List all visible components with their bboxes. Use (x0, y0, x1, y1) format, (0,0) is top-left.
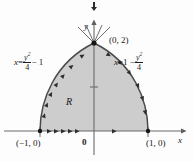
label-origin: 0 (82, 138, 87, 147)
point-1-0 (146, 129, 150, 133)
scan-artifact (91, 2, 97, 11)
equation-left-denominator: 4 (23, 64, 31, 72)
label-point-1-0: (1, 0) (146, 139, 166, 148)
equation-left-numerator: y2 (23, 54, 31, 62)
point-0-2 (91, 40, 96, 45)
label-x-axis: x (178, 136, 182, 145)
equation-right-curve: x=1 −y24 (114, 54, 143, 72)
equation-right-numerator: y2 (135, 54, 143, 62)
equation-right-denominator: 4 (135, 64, 143, 72)
equation-right-fraction: y24 (135, 54, 143, 72)
parabolic-region-figure: x=y24− 1 x=1 −y24 (0, 2) (−1, 0) (1, 0) … (0, 0, 193, 162)
equation-right-exponent: 2 (139, 51, 142, 57)
equation-right-leading: 1 − (123, 57, 135, 67)
point-neg1-0 (38, 129, 42, 133)
label-point-0-2: (0, 2) (109, 36, 129, 45)
label-point-neg1-0: (−1, 0) (16, 139, 41, 148)
equation-left-exponent: 2 (28, 51, 31, 57)
equation-left-fraction: y24 (23, 54, 31, 72)
label-y-axis: y (84, 22, 88, 31)
label-region-R: R (66, 97, 72, 107)
equation-left-trailing: − 1 (31, 57, 43, 67)
equation-left-curve: x=y24− 1 (14, 54, 43, 72)
